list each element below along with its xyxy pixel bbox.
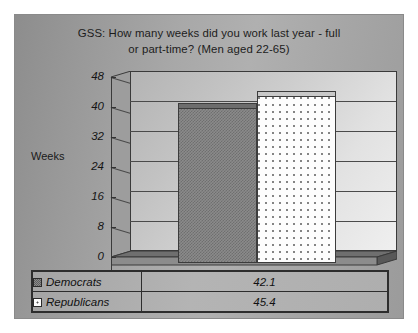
y-tick-16 (111, 197, 116, 198)
y-axis-title: Weeks (31, 150, 64, 162)
bar-democrats[interactable] (178, 103, 257, 263)
y-label-16: 16 (70, 190, 104, 202)
chart-title-line-1: GSS: How many weeks did you work last ye… (33, 25, 385, 41)
legend-value-republicans: 45.4 (142, 292, 388, 312)
legend-row-democrats[interactable]: Democrats (33, 272, 142, 292)
checkered-gray-swatch-icon (33, 278, 42, 287)
y-label-8: 8 (70, 220, 104, 232)
plot-area: 48 40 32 24 16 8 0 (111, 71, 397, 271)
legend-label-democrats: Democrats (46, 276, 102, 288)
legend-data-table: Democrats 42.1 Republicans 45.4 (31, 270, 389, 313)
legend-label-republicans: Republicans (46, 296, 109, 308)
y-tick-0 (111, 257, 116, 258)
y-label-24: 24 (70, 160, 104, 172)
chart-frame: GSS: How many weeks did you work last ye… (14, 14, 404, 319)
chart-title: GSS: How many weeks did you work last ye… (33, 25, 385, 57)
y-label-32: 32 (70, 130, 104, 142)
y-tick-8 (111, 227, 116, 228)
y-tick-48 (111, 77, 116, 78)
legend-value-democrats: 42.1 (142, 272, 388, 292)
bar-democrats-front-face (178, 108, 257, 263)
y-tick-24 (111, 167, 116, 168)
legend-row-republicans[interactable]: Republicans (33, 292, 142, 312)
chart-title-line-2: or part-time? (Men aged 22-65) (33, 41, 385, 57)
dotted-white-swatch-icon (33, 298, 42, 307)
table-row[interactable]: Republicans 45.4 (33, 292, 388, 312)
y-tick-40 (111, 107, 116, 108)
y-label-0: 0 (70, 250, 104, 262)
y-tick-32 (111, 137, 116, 138)
bar-republicans-front-face (257, 96, 336, 263)
table-row[interactable]: Democrats 42.1 (33, 272, 388, 292)
y-label-48: 48 (70, 70, 104, 82)
bar-republicans[interactable] (257, 91, 336, 263)
chart-screenshot: GSS: How many weeks did you work last ye… (0, 0, 418, 333)
y-label-40: 40 (70, 100, 104, 112)
